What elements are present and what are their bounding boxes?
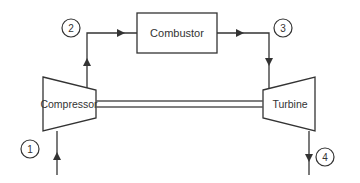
flow-exhaust [305,131,313,175]
flow-2-line [87,33,137,88]
combustor: Combustor [137,13,217,53]
shaft [96,101,263,107]
state-point-label: 3 [280,23,286,34]
state-point-3: 3 [274,19,292,37]
flow-3-down-arrow-icon [265,58,273,66]
flow-3-line [217,33,269,88]
state-point-label: 1 [27,144,33,155]
combustor-label: Combustor [150,27,204,39]
flow-3-right-arrow-icon [236,29,244,37]
turbine-label: Turbine [272,98,307,110]
flow-compressor-to-combustor [83,29,137,88]
flow-combustor-to-turbine [217,29,273,88]
compressor-label: Compressor [40,98,98,110]
state-point-1: 1 [21,140,39,158]
state-point-2: 2 [62,19,80,37]
state-point-label: 2 [68,23,74,34]
flow-2-right-arrow-icon [117,29,125,37]
exhaust-arrow-icon [305,154,313,162]
inlet-arrow-icon [53,152,61,160]
compressor: Compressor [40,77,98,131]
gas-turbine-diagram: Compressor Turbine Combustor 1 [0,0,360,183]
flow-inlet [53,131,61,175]
turbine: Turbine [263,77,315,131]
flow-2-up-arrow-icon [83,58,91,66]
state-point-4: 4 [316,148,334,166]
state-point-label: 4 [322,152,328,163]
